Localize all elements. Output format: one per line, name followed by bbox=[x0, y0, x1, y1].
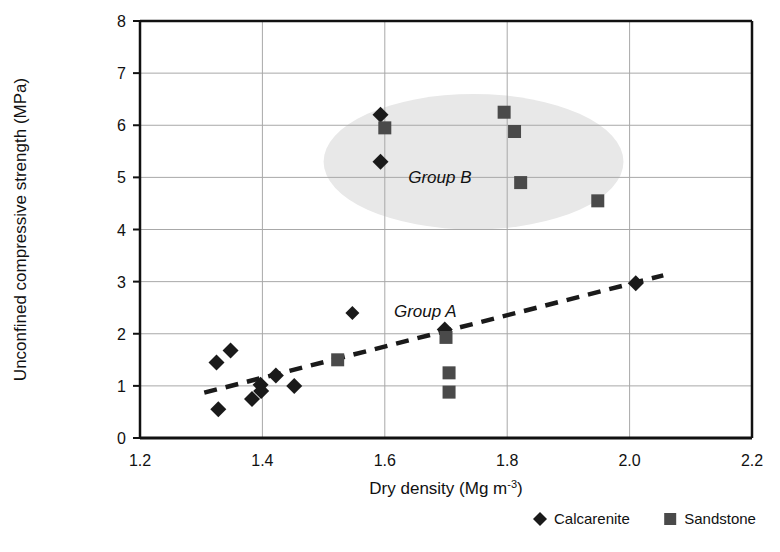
group-b-ellipse bbox=[324, 94, 624, 230]
data-point-square bbox=[498, 106, 511, 119]
data-point-square bbox=[331, 353, 344, 366]
y-tick-label: 3 bbox=[117, 274, 126, 291]
y-tick-label: 8 bbox=[117, 13, 126, 30]
data-point-square bbox=[591, 194, 604, 207]
data-point-square bbox=[443, 366, 456, 379]
group-b-label: Group B bbox=[408, 168, 471, 187]
data-point-square bbox=[514, 176, 527, 189]
legend-label: Calcarenite bbox=[554, 510, 630, 527]
data-point-square bbox=[378, 121, 391, 134]
y-tick-label: 2 bbox=[117, 326, 126, 343]
legend-marker-diamond bbox=[533, 512, 547, 526]
x-tick-label: 1.4 bbox=[251, 452, 273, 469]
legend-label: Sandstone bbox=[684, 510, 756, 527]
y-tick-label: 6 bbox=[117, 117, 126, 134]
group-a-label: Group A bbox=[394, 302, 457, 321]
y-tick-label: 7 bbox=[117, 65, 126, 82]
legend: CalcareniteSandstone bbox=[533, 510, 756, 527]
x-tick-label: 2.0 bbox=[618, 452, 640, 469]
legend-marker-square bbox=[664, 513, 676, 525]
data-point-square bbox=[440, 331, 453, 344]
y-axis-title: Unconfined compressive strength (MPa) bbox=[11, 78, 30, 381]
x-axis-title: Dry density (Mg m-3) bbox=[369, 478, 522, 498]
x-tick-label: 2.2 bbox=[741, 452, 763, 469]
chart-canvas: 0123456781.21.41.61.82.02.2Group BGroup … bbox=[0, 0, 780, 552]
x-tick-label: 1.6 bbox=[374, 452, 396, 469]
x-tick-label: 1.8 bbox=[496, 452, 518, 469]
y-tick-label: 4 bbox=[117, 222, 126, 239]
data-point-square bbox=[508, 125, 521, 138]
y-tick-label: 1 bbox=[117, 378, 126, 395]
data-point-square bbox=[443, 386, 456, 399]
y-tick-label: 0 bbox=[117, 430, 126, 447]
scatter-chart-figure: 0123456781.21.41.61.82.02.2Group BGroup … bbox=[0, 0, 780, 552]
y-tick-label: 5 bbox=[117, 169, 126, 186]
x-tick-label: 1.2 bbox=[129, 452, 151, 469]
